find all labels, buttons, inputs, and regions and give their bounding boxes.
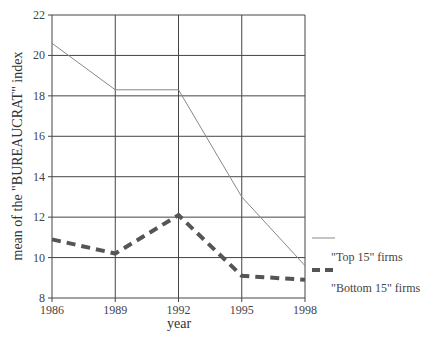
- y-tick-label: 20: [33, 48, 45, 62]
- y-tick-label: 12: [33, 210, 45, 224]
- line-chart: 810121416182022 19861989199219951998 mea…: [0, 0, 422, 339]
- x-tick-label: 1998: [293, 303, 317, 317]
- y-axis-label: mean of the "BUREAUCRAT" index: [10, 52, 25, 261]
- x-tick-label: 1986: [40, 303, 64, 317]
- x-tick-label: 1992: [167, 303, 191, 317]
- y-tick-label: 16: [33, 129, 45, 143]
- y-tick-label: 22: [33, 8, 45, 22]
- legend-label-top15: "Top 15" firms: [331, 250, 403, 264]
- y-tick-label: 10: [33, 251, 45, 265]
- x-axis-ticks: 19861989199219951998: [40, 303, 317, 317]
- x-tick-label: 1995: [230, 303, 254, 317]
- x-tick-label: 1989: [103, 303, 127, 317]
- y-tick-label: 18: [33, 89, 45, 103]
- legend: "Top 15" firms "Bottom 15" firms: [312, 238, 420, 295]
- y-axis-ticks: 810121416182022: [33, 8, 45, 305]
- legend-label-bottom15: "Bottom 15" firms: [331, 281, 420, 295]
- x-axis-label: year: [167, 316, 191, 331]
- grid-lines: [48, 15, 305, 302]
- y-tick-label: 14: [33, 170, 45, 184]
